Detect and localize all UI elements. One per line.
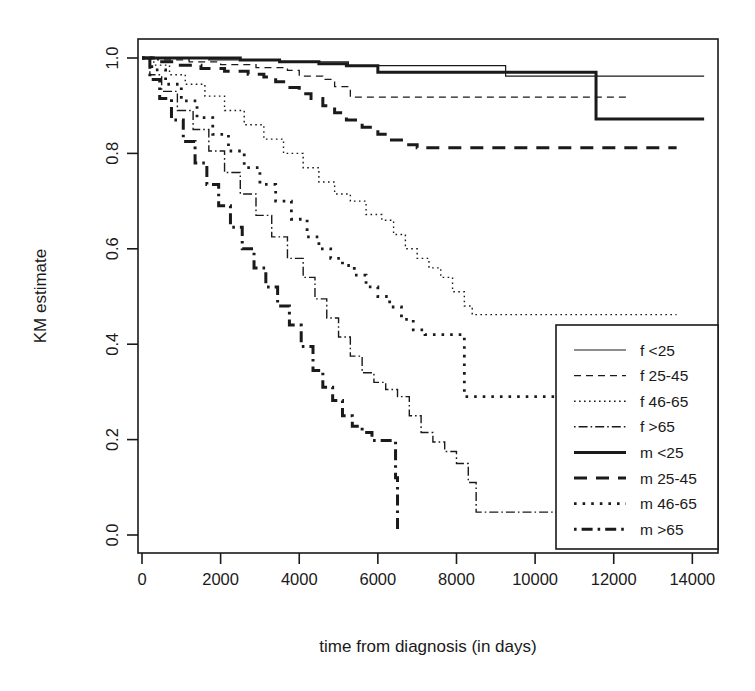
y-tick-label: 0.8 xyxy=(103,142,121,165)
km-survival-figure: 02000400060008000100001200014000 0.00.20… xyxy=(0,0,755,691)
legend-label: f >65 xyxy=(640,418,675,435)
x-tick-label: 2000 xyxy=(202,570,239,588)
x-axis-tick-labels: 02000400060008000100001200014000 xyxy=(137,570,715,588)
series-line xyxy=(142,58,629,97)
series-line xyxy=(142,58,704,119)
y-tick-label: 0.6 xyxy=(103,237,121,260)
x-tick-label: 8000 xyxy=(438,570,475,588)
y-axis-ticks xyxy=(127,58,138,535)
y-axis-label: KM estimate xyxy=(31,249,50,343)
legend-label: f 25-45 xyxy=(640,367,688,384)
y-tick-label: 0.2 xyxy=(103,428,121,451)
x-tick-label: 14000 xyxy=(669,570,715,588)
x-axis-ticks xyxy=(142,553,692,564)
y-axis-tick-labels: 0.00.20.40.60.81.0 xyxy=(103,47,121,547)
legend-box xyxy=(556,325,718,549)
y-tick-label: 0.0 xyxy=(103,524,121,547)
x-tick-label: 10000 xyxy=(512,570,558,588)
y-tick-label: 1.0 xyxy=(103,47,121,70)
x-axis-label: time from diagnosis (in days) xyxy=(319,637,536,656)
chart-canvas: 02000400060008000100001200014000 0.00.20… xyxy=(0,0,755,691)
series-line xyxy=(142,58,563,512)
legend-label: f 46-65 xyxy=(640,393,688,410)
x-tick-label: 6000 xyxy=(360,570,397,588)
y-tick-label: 0.4 xyxy=(103,333,121,356)
series-line xyxy=(142,58,559,397)
legend-label: f <25 xyxy=(640,342,675,359)
legend-label: m >65 xyxy=(640,521,684,538)
x-tick-label: 4000 xyxy=(281,570,318,588)
x-tick-label: 0 xyxy=(137,570,146,588)
legend-label: m <25 xyxy=(640,444,684,461)
x-tick-label: 12000 xyxy=(591,570,637,588)
legend-label: m 46-65 xyxy=(640,495,697,512)
series-line xyxy=(142,58,398,529)
legend-label: m 25-45 xyxy=(640,470,697,487)
legend: f <25f 25-45f 46-65f >65m <25m 25-45m 46… xyxy=(556,325,718,549)
